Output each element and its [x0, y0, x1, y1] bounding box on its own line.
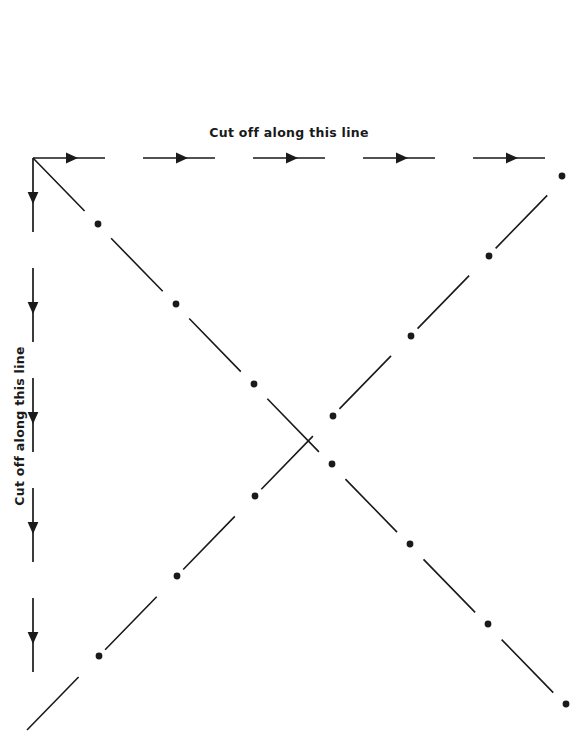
- fold-diagonal-nw-se-group: [33, 158, 574, 714]
- arrowhead-right-icon: [176, 153, 188, 164]
- arrowhead-right-icon: [286, 153, 298, 164]
- fold-dot: [95, 221, 102, 228]
- left-cut-arrowheads: [28, 192, 39, 644]
- top-cut-line-group: [33, 153, 562, 164]
- left-cut-line-label: Cut off along this line: [12, 346, 27, 506]
- arrowhead-right-icon: [66, 153, 78, 164]
- left-cut-line-group: [28, 158, 39, 690]
- arrowhead-down-icon: [28, 412, 39, 424]
- fold-dot: [251, 381, 258, 388]
- fold-dot: [173, 301, 180, 308]
- cut-guides-diagram: [0, 0, 578, 733]
- arrowhead-right-icon: [396, 153, 408, 164]
- fold-dot: [174, 573, 181, 580]
- cut-and-fold-template-sheet: Cut off along this line Cut off along th…: [0, 0, 578, 733]
- arrowhead-down-icon: [28, 192, 39, 204]
- fold-diagonal-nw-se-dots: [95, 221, 570, 708]
- arrowhead-down-icon: [28, 632, 39, 644]
- fold-dot: [486, 253, 493, 260]
- fold-diagonal-sw-ne-dots: [96, 173, 566, 660]
- top-cut-arrowheads: [66, 153, 518, 164]
- arrowhead-down-icon: [28, 522, 39, 534]
- fold-dot: [329, 461, 336, 468]
- fold-diagonal-nw-se: [33, 158, 574, 714]
- fold-dot: [408, 333, 415, 340]
- fold-dot: [96, 653, 103, 660]
- fold-dot: [563, 701, 570, 708]
- fold-dot: [559, 173, 566, 180]
- fold-dot: [252, 493, 259, 500]
- fold-dot: [485, 621, 492, 628]
- arrowhead-right-icon: [506, 153, 518, 164]
- arrowhead-down-icon: [28, 302, 39, 314]
- fold-dot: [407, 541, 414, 548]
- fold-diagonal-sw-ne-group: [27, 173, 568, 730]
- top-cut-line-label: Cut off along this line: [209, 125, 369, 140]
- fold-dot: [330, 413, 337, 420]
